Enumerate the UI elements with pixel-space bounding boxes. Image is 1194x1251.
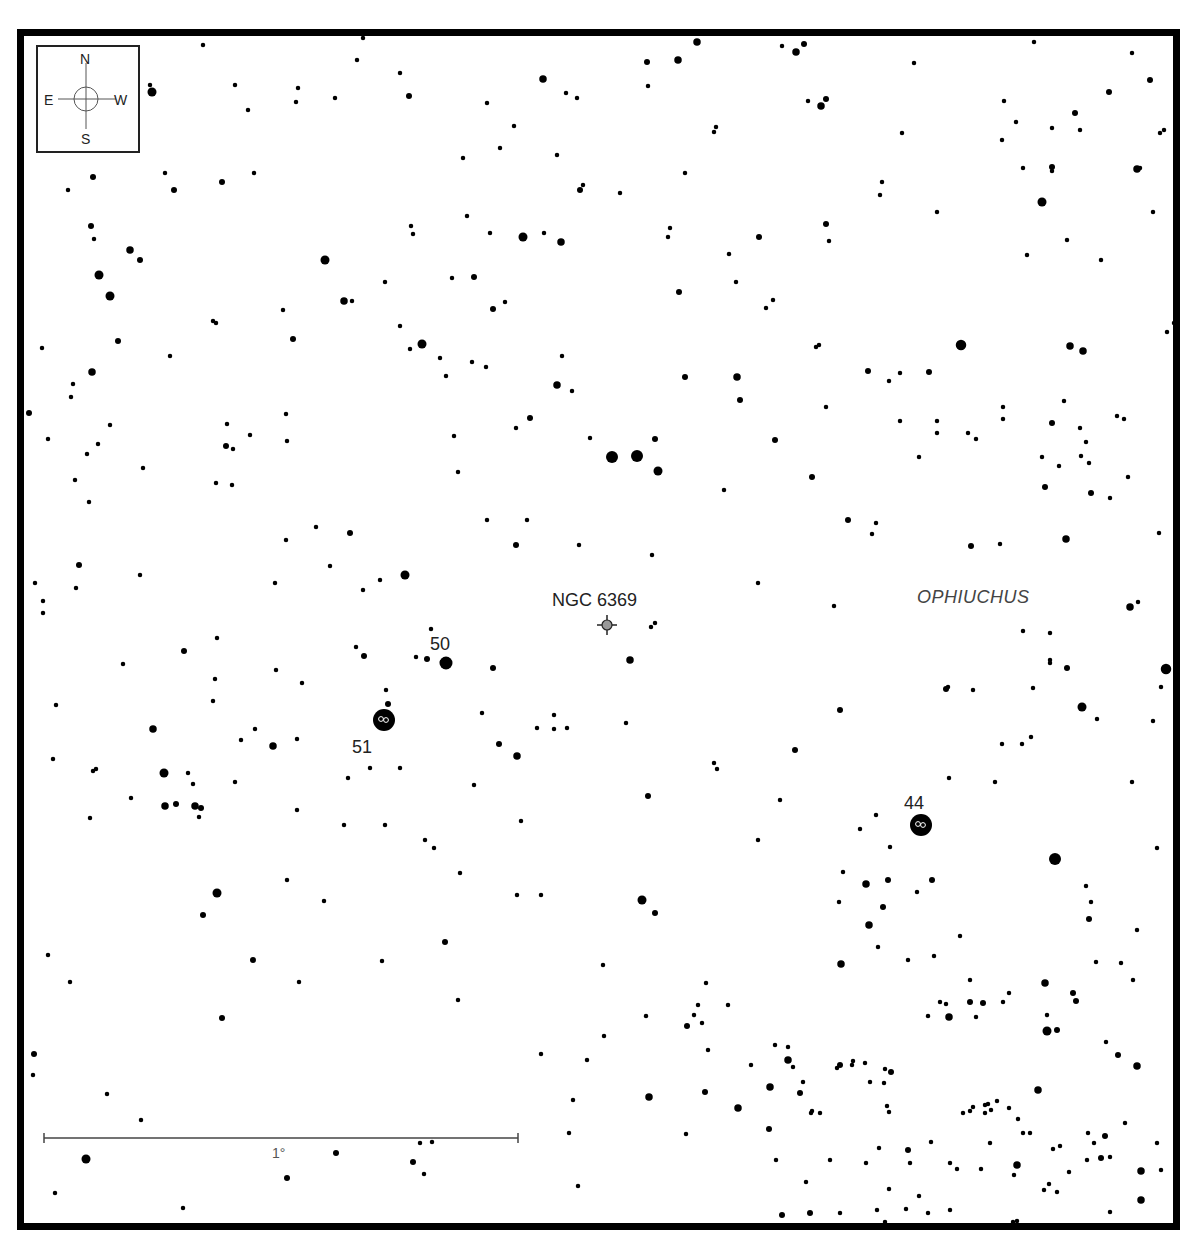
star [581, 183, 586, 188]
star [149, 725, 157, 733]
star [851, 1059, 856, 1064]
star [1108, 496, 1113, 501]
star [444, 374, 449, 379]
star [1126, 475, 1131, 480]
star [1047, 1182, 1052, 1187]
star [876, 945, 881, 950]
star [1012, 1173, 1017, 1178]
star [865, 921, 873, 929]
star [1070, 990, 1076, 996]
target-label: NGC 6369 [552, 590, 637, 611]
named-star-51 [373, 709, 395, 731]
star [887, 379, 892, 384]
star [1042, 1188, 1047, 1193]
star [727, 252, 732, 257]
star [215, 636, 220, 641]
star [181, 648, 187, 654]
star [947, 776, 952, 781]
star [818, 1111, 823, 1116]
star [31, 1051, 37, 1057]
star [92, 237, 97, 242]
star [1021, 166, 1026, 171]
star [361, 36, 366, 41]
star [565, 726, 570, 731]
star [1135, 928, 1140, 933]
star [971, 1105, 976, 1110]
star [398, 71, 403, 76]
star [26, 410, 32, 416]
star [780, 44, 785, 49]
star [908, 1161, 913, 1166]
star [295, 808, 300, 813]
star [792, 48, 800, 56]
star [1106, 89, 1112, 95]
star [898, 371, 903, 376]
star [201, 43, 206, 48]
star [161, 802, 169, 810]
star [784, 1056, 792, 1064]
star [817, 102, 825, 110]
star [233, 83, 238, 88]
star [71, 382, 76, 387]
compass-rose: N S E W [36, 45, 140, 153]
star [887, 1187, 892, 1192]
star [801, 1080, 806, 1085]
star [702, 1089, 708, 1095]
star [863, 1061, 868, 1066]
star [998, 542, 1003, 547]
star [380, 959, 385, 964]
star [498, 146, 503, 151]
star [737, 397, 743, 403]
star [979, 1167, 984, 1172]
star [967, 999, 973, 1005]
star [73, 478, 78, 483]
star [1161, 664, 1172, 675]
star [285, 878, 290, 883]
star [515, 893, 520, 898]
star [525, 518, 530, 523]
star [638, 896, 647, 905]
star [355, 58, 360, 63]
star [87, 500, 92, 505]
star [570, 389, 575, 394]
star [485, 101, 490, 106]
star [882, 1081, 887, 1086]
star [1021, 629, 1026, 634]
star [1084, 440, 1089, 445]
star [792, 747, 798, 753]
star [513, 542, 519, 548]
star [814, 345, 819, 350]
star [76, 562, 82, 568]
star [542, 231, 547, 236]
star [1151, 210, 1156, 215]
star [845, 517, 851, 523]
star [828, 1158, 833, 1163]
star [1045, 1013, 1050, 1018]
star [214, 481, 219, 486]
star [564, 91, 569, 96]
star [480, 711, 485, 716]
star [214, 321, 219, 326]
star [1042, 484, 1048, 490]
star [756, 581, 761, 586]
star [1000, 138, 1005, 143]
star [905, 1147, 911, 1153]
star [868, 1080, 873, 1085]
star [401, 571, 410, 580]
star [69, 395, 74, 400]
scale-bar [44, 1133, 518, 1143]
star [989, 1108, 994, 1113]
star [424, 656, 430, 662]
named-star-44 [910, 814, 932, 836]
star [1115, 1052, 1121, 1058]
star [456, 470, 461, 475]
star [865, 368, 871, 374]
star [139, 1118, 144, 1123]
star [213, 889, 222, 898]
star [74, 586, 79, 591]
star [712, 130, 717, 135]
star [935, 210, 940, 215]
star [877, 1146, 882, 1151]
star [786, 1045, 791, 1050]
star [484, 365, 489, 370]
